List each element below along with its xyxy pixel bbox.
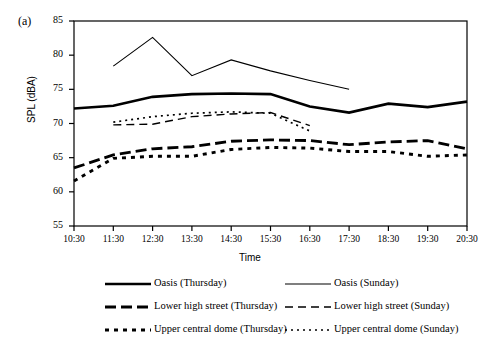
series-line: [74, 93, 467, 112]
x-tick-label: 12:30: [131, 234, 175, 244]
legend-label: Oasis (Sunday): [334, 277, 398, 288]
legend-line-sample: [105, 299, 151, 311]
legend-item: Oasis (Thursday): [105, 272, 227, 292]
x-tick-label: 10:30: [52, 234, 96, 244]
x-tick-label: 13:30: [170, 234, 214, 244]
legend-label: Lower high street (Thursday): [154, 300, 277, 311]
x-tick-label: 19:30: [406, 234, 450, 244]
legend-label: Upper central dome (Thursday): [154, 323, 287, 334]
line-chart-plot: [0, 0, 500, 270]
legend-line-sample: [105, 276, 151, 288]
series-line: [113, 37, 349, 89]
legend-label: Oasis (Thursday): [154, 277, 227, 288]
y-tick-label: 70: [37, 117, 63, 128]
legend-line-sample: [285, 299, 331, 311]
legend-line-sample: [285, 276, 331, 288]
x-tick-label: 15:30: [249, 234, 293, 244]
series-line: [74, 140, 467, 168]
legend-label: Upper central dome (Sunday): [334, 323, 459, 334]
y-tick-label: 80: [37, 48, 63, 59]
x-tick-label: 20:30: [445, 234, 489, 244]
series-line: [113, 113, 309, 126]
legend-item: Upper central dome (Thursday): [105, 318, 287, 338]
figure-panel-a: (a) SPL (dBA) Time 55606570758085 10:301…: [0, 0, 500, 338]
legend-item: Lower high street (Thursday): [105, 295, 277, 315]
series-line: [113, 112, 309, 131]
y-tick-label: 65: [37, 151, 63, 162]
x-tick-label: 18:30: [366, 234, 410, 244]
x-tick-label: 14:30: [209, 234, 253, 244]
x-tick-label: 11:30: [91, 234, 135, 244]
legend-line-sample: [285, 322, 331, 334]
legend-item: Lower high street (Sunday): [285, 295, 449, 315]
series-line: [74, 147, 467, 180]
legend-label: Lower high street (Sunday): [334, 300, 449, 311]
x-tick-label: 17:30: [327, 234, 371, 244]
legend-item: Upper central dome (Sunday): [285, 318, 459, 338]
y-tick-label: 85: [37, 14, 63, 25]
y-tick-label: 55: [37, 219, 63, 230]
y-tick-label: 75: [37, 82, 63, 93]
chart-legend: Oasis (Thursday)Oasis (Sunday)Lower high…: [0, 272, 500, 338]
legend-line-sample: [105, 322, 151, 334]
x-tick-label: 16:30: [288, 234, 332, 244]
y-tick-label: 60: [37, 185, 63, 196]
legend-item: Oasis (Sunday): [285, 272, 398, 292]
